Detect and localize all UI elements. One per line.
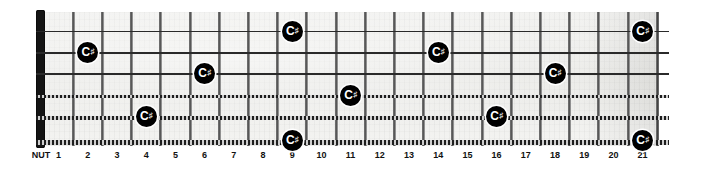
fret-line-8	[276, 12, 279, 146]
note-marker-string1-fret21: C♯	[632, 21, 653, 42]
fret-line-9	[305, 12, 308, 146]
fret-line-6	[218, 12, 221, 146]
fret-number-14: 14	[433, 150, 443, 160]
fret-number-6: 6	[202, 150, 207, 160]
fret-number-11: 11	[346, 150, 356, 160]
fret-line-10	[335, 12, 338, 146]
fret-number-1: 1	[56, 150, 61, 160]
fret-line-2	[101, 12, 104, 146]
note-letter: C	[636, 25, 644, 37]
fret-number-16: 16	[492, 150, 502, 160]
fret-number-15: 15	[462, 150, 472, 160]
fret-number-12: 12	[375, 150, 385, 160]
sharp-icon: ♯	[558, 69, 562, 77]
sharp-icon: ♯	[295, 136, 299, 144]
note-marker-string3-fret18: C♯	[545, 63, 566, 84]
fret-number-21: 21	[638, 150, 648, 160]
fret-number-19: 19	[579, 150, 589, 160]
fret-line-15	[481, 12, 484, 146]
note-marker-string3-fret6: C♯	[194, 63, 215, 84]
fret-line-17	[539, 12, 542, 146]
fretboard-surface	[44, 12, 658, 146]
note-letter: C	[549, 67, 557, 79]
fret-line-5	[189, 12, 192, 146]
fret-number-4: 4	[144, 150, 149, 160]
fret-line-7	[247, 12, 250, 146]
fret-line-19	[597, 12, 600, 146]
sharp-icon: ♯	[645, 27, 649, 35]
string-1-e	[36, 31, 669, 32]
fret-number-8: 8	[260, 150, 265, 160]
string-3-G	[36, 73, 669, 75]
note-marker-string2-fret2: C♯	[77, 42, 98, 63]
note-letter: C	[286, 25, 294, 37]
fret-line-3	[130, 12, 133, 146]
note-letter: C	[490, 110, 498, 122]
fret-line-20	[627, 12, 630, 146]
fret-line-16	[510, 12, 513, 146]
fret-number-7: 7	[231, 150, 236, 160]
sharp-icon: ♯	[295, 27, 299, 35]
fret-number-10: 10	[316, 150, 326, 160]
note-letter: C	[636, 134, 644, 146]
note-marker-string5-fret4: C♯	[136, 106, 157, 127]
sharp-icon: ♯	[499, 112, 503, 120]
fret-line-11	[364, 12, 367, 146]
fret-number-20: 20	[608, 150, 618, 160]
string-5-A	[36, 116, 669, 120]
fret-line-1	[72, 12, 75, 146]
fret-line-18	[568, 12, 571, 146]
fret-line-4	[159, 12, 162, 146]
fret-number-2: 2	[85, 150, 90, 160]
note-letter: C	[432, 46, 440, 58]
note-marker-string6-fret9: C♯	[282, 130, 303, 151]
note-letter: C	[198, 67, 206, 79]
sharp-icon: ♯	[645, 136, 649, 144]
fret-number-5: 5	[173, 150, 178, 160]
sharp-icon: ♯	[207, 69, 211, 77]
note-letter: C	[82, 46, 90, 58]
fret-line-14	[451, 12, 454, 146]
note-letter: C	[344, 89, 352, 101]
fret-number-13: 13	[404, 150, 414, 160]
string-2-B	[36, 52, 669, 54]
fret-line-21	[656, 12, 659, 146]
note-letter: C	[286, 134, 294, 146]
note-marker-string2-fret14: C♯	[428, 42, 449, 63]
note-marker-string6-fret21: C♯	[632, 130, 653, 151]
note-marker-string5-fret16: C♯	[486, 106, 507, 127]
note-letter: C	[140, 110, 148, 122]
fret-number-9: 9	[290, 150, 295, 160]
note-marker-string1-fret9: C♯	[282, 21, 303, 42]
fret-number-17: 17	[521, 150, 531, 160]
sharp-icon: ♯	[353, 91, 357, 99]
fret-number-3: 3	[114, 150, 119, 160]
sharp-icon: ♯	[149, 112, 153, 120]
fret-line-13	[422, 12, 425, 146]
note-marker-string4-fret11: C♯	[340, 85, 361, 106]
nut-label: NUT	[32, 150, 51, 160]
string-6-E	[36, 140, 669, 145]
sharp-icon: ♯	[441, 48, 445, 56]
fretboard-diagram: C♯C♯C♯C♯C♯C♯C♯C♯C♯C♯C♯ 12345678910111213…	[0, 0, 717, 172]
fret-line-12	[393, 12, 396, 146]
fret-number-18: 18	[550, 150, 560, 160]
sharp-icon: ♯	[90, 48, 94, 56]
